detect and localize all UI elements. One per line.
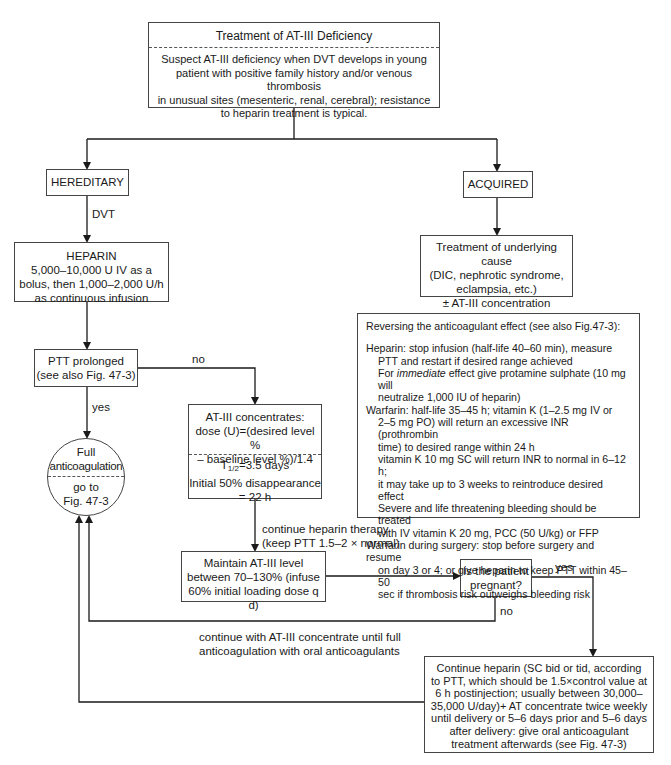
at3-concentrates-box: AT-III concentrates: dose (U)=(desired l… [188, 404, 322, 499]
text-line: with IV vitamin K 20 mg, PCC (50 U/kg) o… [366, 527, 631, 539]
edge-label-yes: yes [92, 400, 110, 414]
text-line: PTT prolonged [35, 354, 137, 368]
text-line: Severe and life threatening bleeding sho… [366, 502, 631, 527]
full-anticoagulation-node: Full anticoagulation go to Fig. 47-3 [47, 438, 125, 516]
maintain-at3-box: Maintain AT-III level between 70–130% (i… [181, 551, 326, 602]
reversing-anticoagulant-box: Reversing the anticoagulant effect (see … [357, 313, 640, 518]
title-description: Suspect AT-III deficiency when DVT devel… [149, 47, 439, 124]
emphasis-text: immediate [397, 367, 446, 379]
text-line: Suspect AT-III deficiency when DVT devel… [153, 53, 435, 67]
text-line: Warfarin during surgery: stop before sur… [366, 539, 631, 564]
text-line: 35,000 U/day)+ AT concentrate twice week… [425, 700, 653, 713]
text-line: Continue heparin (SC bid or tid, accordi… [425, 662, 653, 675]
text-line: 6 h postinjection; usually between 30,00… [425, 687, 653, 700]
text-line: in unusual sites (mesenteric, renal, cer… [153, 94, 435, 108]
text-line: go to [48, 480, 124, 494]
text-line: after delivery: give oral anticoagulant [425, 725, 653, 738]
text-line: eclampsia, etc.) [421, 282, 572, 296]
text-line: bolus, then 1,000–2,000 U/h [15, 277, 168, 291]
text-line: (DIC, nephrotic syndrome, [421, 268, 572, 282]
text-line: Maintain AT-III level [182, 556, 325, 570]
acquired-label: ACQUIRED [468, 178, 529, 190]
text-line: Heparin: stop infusion (half-life 40–60 … [366, 342, 631, 354]
text-line: ± AT-III concentration [421, 296, 572, 310]
text-fragment: For [378, 367, 397, 379]
edge-label-no: no [192, 352, 205, 366]
text-line: time) to desired range within 24 h [366, 441, 631, 453]
text-line: vitamin K 10 mg SC will return INR to no… [366, 453, 631, 478]
text-line: as continuous infusion [15, 291, 168, 305]
text-line: 5,000–10,000 U IV as a [15, 263, 168, 277]
text-line: 60% initial loading dose q d) [182, 584, 325, 612]
text-line: Warfarin: half-life 35–45 h; vitamin K (… [366, 404, 631, 416]
ptt-prolonged-box: PTT prolonged (see also Fig. 47-3) [34, 349, 138, 387]
text-line: sec if thrombosis risk outweighs bleedin… [366, 588, 631, 600]
edge-label-no-pregnant: no [500, 604, 513, 618]
reversing-heading: Reversing the anticoagulant effect (see … [366, 320, 631, 332]
text-line: anticoagulation [48, 459, 124, 473]
at3-dose-section: AT-III concentrates: dose (U)=(desired l… [189, 405, 321, 454]
text-line: between 70–130% (infuse [182, 570, 325, 584]
hereditary-box: HEREDITARY [46, 169, 129, 196]
text-line: neutralize 1,000 IU of heparin) [366, 391, 631, 403]
t-value: =3.5 days [239, 459, 289, 471]
text-line: Treatment of underlying cause [421, 240, 572, 268]
heparin-title: HEPARIN [15, 249, 168, 263]
text-line: = 22 h [189, 490, 321, 504]
text-line: 2–5 mg PO) will return an excessive INR … [366, 416, 631, 441]
text-line: For immediate effect give protamine sulp… [366, 367, 631, 392]
title-heading: Treatment of AT-III Deficiency [149, 23, 439, 47]
text-line: on day 3 or 4; or give heparin to keep P… [366, 564, 631, 589]
heparin-box: HEPARIN 5,000–10,000 U IV as a bolus, th… [14, 242, 169, 302]
text-line: treatment afterwards (see Fig. 47-3) [425, 738, 653, 751]
edge-label-continue-at3: continue with AT-III concentrate until f… [199, 630, 401, 658]
hereditary-label: HEREDITARY [51, 176, 124, 188]
text-line: (see also Fig. 47-3) [35, 368, 137, 382]
underlying-cause-box: Treatment of underlying cause (DIC, neph… [420, 235, 573, 297]
text-line: AT-III concentrates: [189, 410, 321, 424]
text-line: until delivery or 5–6 days prior and 5–6… [425, 712, 653, 725]
continue-heparin-box: Continue heparin (SC bid or tid, accordi… [424, 656, 654, 753]
text-line: PTT and restart if desired range achieve… [366, 355, 631, 367]
text-line: to PTT, which should be 1.5×control valu… [425, 675, 653, 688]
text-line: it may take up to 3 weeks to reintroduce… [366, 478, 631, 503]
text-line: continue with AT-III concentrate until f… [199, 630, 401, 644]
text-line: anticoagulation with oral anticoagulants [199, 644, 401, 658]
text-line: dose (U)=(desired level % [189, 424, 321, 452]
t-subscript: 1/2 [228, 464, 239, 473]
acquired-box: ACQUIRED [463, 171, 533, 198]
title-box: Treatment of AT-III Deficiency Suspect A… [148, 22, 440, 108]
text-line: Initial 50% disappearance [189, 476, 321, 490]
text-line: patient with positive family history and… [153, 67, 435, 94]
circle-bottom: go to Fig. 47-3 [48, 477, 124, 508]
t-symbol: T [221, 459, 228, 471]
edge-label-dvt: DVT [92, 207, 115, 221]
text-line: to heparin treatment is typical. [153, 107, 435, 121]
